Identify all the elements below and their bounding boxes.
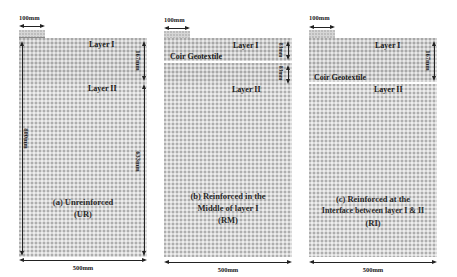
arrow-right-icon [185,26,190,30]
footing-width-label: 100mm [309,14,330,21]
layer-2-label: Layer II [232,85,261,94]
width-dimension [312,262,434,263]
panel-caption: (b) Reinforced in the Middle of layer I … [164,190,292,226]
width-label: 500mm [309,266,437,273]
arrow-up-icon [142,41,146,46]
width-label: 500mm [19,264,147,271]
arrow-left-icon [164,26,169,30]
arrow-right-icon [142,258,147,262]
arrow-left-icon [19,258,24,262]
arrow-right-icon [40,24,45,28]
layer-1-height-dimension [144,44,145,78]
footing [19,30,45,38]
arrow-down-icon [142,251,146,256]
arrow-right-icon [432,260,437,264]
lower-spacing-label: 83mm [278,58,284,88]
arrow-left-icon [309,260,314,264]
caption-line-3: (RI) [309,217,437,229]
arrow-down-icon [286,79,290,84]
panel-caption: (a) Unreinforced (UR) [19,196,147,220]
arrow-up-icon [286,65,290,70]
arrow-up-icon [142,84,146,89]
layer-1-label: Layer I [233,41,258,50]
arrow-up-icon [20,41,24,46]
arrow-up-icon [432,41,436,46]
soil-layer-2 [309,84,437,257]
layer-1-height-label: 167mm [425,46,432,76]
layer-1-label: Layer I [375,41,400,50]
soil-layer-1 [19,38,147,82]
layer-2-label: Layer II [374,85,403,94]
arrow-left-icon [164,260,169,264]
geotextile-label: Coir Geotextile [314,73,366,82]
arrow-left-icon [309,25,314,29]
layer-1-height-label: 167mm [135,46,142,76]
arrow-right-icon [287,260,292,264]
footing-width-label: 100mm [19,14,40,21]
caption-prefix: (c) [336,194,348,204]
caption-line-1: Unreinforced [65,197,113,207]
arrow-right-icon [330,25,335,29]
arrow-left-icon [19,24,24,28]
caption-line-2: Middle of layer I [164,202,292,214]
arrow-up-icon [286,41,290,46]
layer-1-label: Layer I [89,40,114,49]
caption-line-1: Reinforced in the [203,191,266,201]
arrow-down-icon [142,76,146,81]
caption-line-3: (RM) [164,214,292,226]
caption-prefix: (a) [53,197,65,207]
arrow-down-icon [286,55,290,60]
arrow-down-icon [432,76,436,81]
soil-layer-2 [19,82,147,257]
total-height-label: 800mm [23,124,30,154]
layer-2-height-label: 633mm [135,147,142,177]
soil-layer-1-lower [164,63,292,83]
caption-line-2: (UR) [19,208,147,220]
footing-width-label: 100mm [164,16,185,23]
width-dimension [167,262,289,263]
caption-line-1: Reinforced at the [347,194,410,204]
panel-caption: (c) Reinforced at the Interface between … [309,193,437,229]
width-label: 500mm [164,266,292,273]
arrow-down-icon [20,251,24,256]
width-dimension [22,260,144,261]
caption-line-2: Interface between layer I & II [309,205,437,217]
layer-2-height-dimension [144,86,145,253]
layer-2-label: Layer II [88,84,117,93]
layer-1-height-dimension [434,44,435,78]
soil-layer-2 [164,83,292,257]
caption-prefix: (b) [190,191,203,201]
geotextile-label: Coir Geotextile [170,52,222,61]
